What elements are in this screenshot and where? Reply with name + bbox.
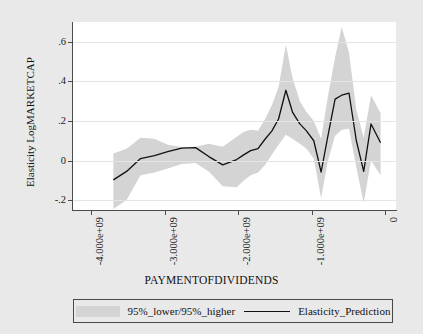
gridline-y <box>73 81 396 82</box>
gridline-y <box>73 161 396 162</box>
y-axis-line <box>72 22 73 211</box>
chart-canvas <box>73 22 396 210</box>
y-tick-mark <box>68 81 72 82</box>
y-tick-label: .4 <box>2 76 66 87</box>
y-tick-label: -.2 <box>2 195 66 206</box>
x-tick-label: -3.000e+09 <box>169 217 180 265</box>
x-tick-mark <box>238 211 239 215</box>
legend-label-ci: 95%_lower/95%_higher <box>128 305 236 317</box>
x-tick-mark <box>165 211 166 215</box>
y-tick-label: .2 <box>2 116 66 127</box>
plot-area <box>73 22 396 210</box>
legend-label-prediction: Elasticity_Prediction <box>298 305 390 317</box>
chart-root: Elasticity LogMARKETCAP .6.4.20-.2 -4.00… <box>0 0 423 334</box>
y-tick-label: .6 <box>2 37 66 48</box>
x-tick-mark <box>91 211 92 215</box>
gridline-y <box>73 121 396 122</box>
y-tick-mark <box>68 121 72 122</box>
y-tick-mark <box>68 200 72 201</box>
x-axis-title: PAYMENTOFDIVIDENDS <box>0 274 423 286</box>
x-tick-label: -2.000e+09 <box>242 217 253 265</box>
y-tick-label: 0 <box>2 155 66 166</box>
x-tick-label: -1.000e+09 <box>316 217 327 265</box>
y-tick-mark <box>68 42 72 43</box>
confidence-band <box>113 27 380 209</box>
x-axis-line <box>72 210 397 211</box>
legend-band-swatch <box>76 306 120 317</box>
y-tick-mark <box>68 161 72 162</box>
legend-entry-ci: 95%_lower/95%_higher <box>76 305 236 317</box>
x-tick-mark <box>312 211 313 215</box>
gridline-y <box>73 42 396 43</box>
chart-legend: 95%_lower/95%_higher Elasticity_Predicti… <box>73 299 393 323</box>
legend-line-swatch <box>244 311 290 312</box>
x-tick-label: 0 <box>389 217 400 222</box>
gridline-y <box>73 200 396 201</box>
legend-entry-prediction: Elasticity_Prediction <box>244 305 390 317</box>
x-tick-mark <box>385 211 386 215</box>
x-tick-label: -4.000e+09 <box>95 217 106 265</box>
